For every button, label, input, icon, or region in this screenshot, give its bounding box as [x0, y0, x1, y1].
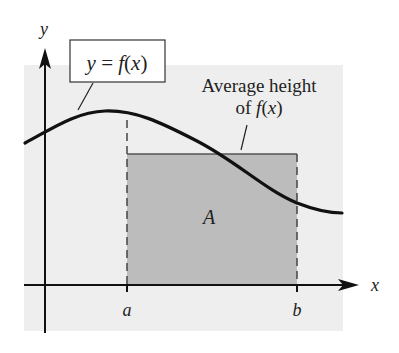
average-height-label-prefix: of	[236, 97, 257, 118]
y-axis-label: y	[38, 19, 48, 39]
average-height-label-line2: of f(x)	[236, 97, 283, 119]
curve-label: y = f(x)	[85, 51, 148, 75]
average-height-label-line1: Average height	[201, 75, 317, 96]
x-axis-label: x	[370, 275, 379, 295]
area-label: A	[201, 206, 216, 228]
tick-label-b: b	[293, 300, 302, 320]
tick-label-a: a	[123, 300, 132, 320]
average-value-diagram: y = f(x) Average height of f(x) A y x a …	[0, 0, 399, 353]
